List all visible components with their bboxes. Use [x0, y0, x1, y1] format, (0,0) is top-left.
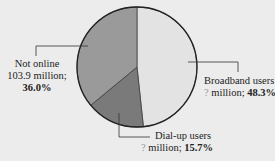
dialup-label: Dial-up users ? million; 15.7%	[153, 130, 213, 154]
pie-chart: Broadband users ? million; 48.3% Dial-up…	[0, 0, 275, 161]
broadband-label: Broadband users ? million; 48.3%	[204, 75, 275, 99]
notonline-label: Not online 103.9 million; 36.0%	[6, 58, 68, 94]
broadband-slice	[137, 7, 197, 127]
